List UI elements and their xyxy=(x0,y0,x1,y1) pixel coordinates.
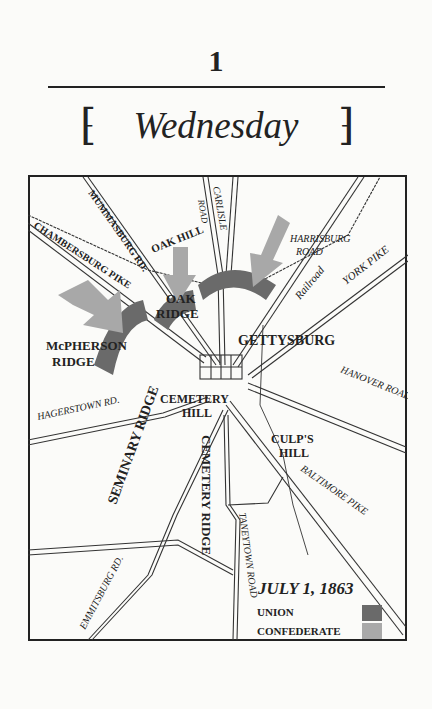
gettysburg-label: GETTYSBURG xyxy=(238,333,335,348)
culps-hill-label-2: HILL xyxy=(279,446,309,460)
mcpherson-label-1: McPHERSON xyxy=(46,338,127,353)
legend-confederate-label: CONFEDERATE xyxy=(257,625,341,637)
chapter-title-row: ⁅ Wednesday ⁆ xyxy=(0,100,432,150)
mcpherson-label-2: RIDGE xyxy=(52,354,95,369)
legend-union-swatch xyxy=(362,605,382,621)
oak-ridge-label-2: RIDGE xyxy=(156,306,199,321)
chapter-title: Wednesday xyxy=(0,104,432,147)
cemetery-hill-label-1: CEMETERY xyxy=(160,392,229,406)
cemetery-hill-label-2: HILL xyxy=(182,406,212,420)
legend-date: JULY 1, 1863 xyxy=(257,579,354,598)
harrisburg-label-1: HARRISBURG xyxy=(289,233,351,244)
legend-union-label: UNION xyxy=(257,606,294,618)
harrisburg-label-2: ROAD xyxy=(295,246,323,257)
oak-ridge-label-1: OAK xyxy=(166,291,197,306)
legend-confederate-swatch xyxy=(362,623,382,639)
culps-hill-label-1: CULP'S xyxy=(271,432,314,446)
cemetery-ridge-label: CEMETERY RIDGE xyxy=(199,435,214,555)
divider-rule xyxy=(48,86,385,88)
battle-map: MUMMASBURG RD. ROAD CARLISLE OAK HILL HA… xyxy=(28,175,408,643)
chapter-number: 1 xyxy=(0,44,432,78)
right-ornament-icon: ⁆ xyxy=(338,100,354,149)
